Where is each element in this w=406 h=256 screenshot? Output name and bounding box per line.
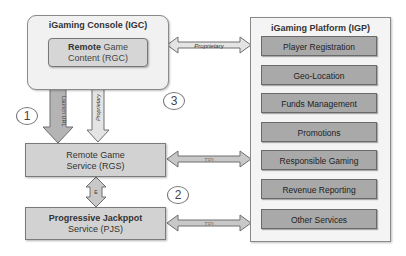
rgs-line1: Remote Game bbox=[26, 150, 165, 161]
rgc-line1-bold: Remote bbox=[68, 42, 101, 52]
service-funds-management: Funds Management bbox=[261, 93, 377, 113]
rgc-line2: Content (RGC) bbox=[49, 53, 147, 64]
pjs-line1: Progressive Jackppot bbox=[26, 213, 165, 224]
pjs-line2: Service (PJS) bbox=[26, 224, 165, 235]
service-responsible-gaming: Responsible Gaming bbox=[261, 150, 377, 170]
arrow-label-tpi-rgs: TPI bbox=[204, 157, 214, 163]
arrow-launch-url: Launch URL bbox=[43, 88, 73, 143]
service-player-registration: Player Registration bbox=[261, 36, 377, 56]
arrow-igc-igp: Proprietary bbox=[167, 37, 251, 53]
marker-2: 2 bbox=[167, 186, 189, 204]
rgc-line1: Remote Game bbox=[49, 42, 147, 53]
igaming-console-title: iGaming Console (IGC) bbox=[28, 20, 168, 30]
arrow-pjs-igp: TPI bbox=[167, 215, 251, 231]
arrow-label-launch-url: Launch URL bbox=[61, 96, 67, 127]
arrow-label-proprietary-vertical: Proprietary bbox=[95, 93, 101, 121]
igaming-console-box: iGaming Console (IGC) Remote Game Conten… bbox=[27, 15, 169, 90]
igaming-platform-box: iGaming Platform (IGP) Player Registrati… bbox=[250, 17, 391, 242]
marker-3: 3 bbox=[163, 92, 185, 110]
rgs-line2: Service (RGS) bbox=[26, 161, 165, 172]
service-other-services: Other Services bbox=[261, 209, 377, 229]
marker-1: 1 bbox=[16, 107, 38, 125]
rgc-line1-rest: Game bbox=[101, 42, 128, 52]
arrow-rgs-igp: TPI bbox=[167, 151, 251, 167]
service-promotions: Promotions bbox=[261, 122, 377, 142]
remote-game-content-box: Remote Game Content (RGC) bbox=[48, 38, 148, 67]
progressive-jackpot-service-box: Progressive Jackppot Service (PJS) bbox=[25, 207, 166, 240]
arrow-label-proprietary-top: Proprietary bbox=[194, 43, 224, 49]
service-geo-location: Geo-Location bbox=[261, 65, 377, 85]
remote-game-service-box: Remote Game Service (RGS) bbox=[25, 143, 166, 177]
igaming-platform-title: iGaming Platform (IGP) bbox=[251, 23, 390, 33]
arrow-label-tpi-pjs: TPI bbox=[204, 221, 214, 227]
service-revenue-reporting: Revenue Reporting bbox=[261, 179, 377, 199]
arrow-rgs-pjs: E bbox=[86, 177, 106, 207]
